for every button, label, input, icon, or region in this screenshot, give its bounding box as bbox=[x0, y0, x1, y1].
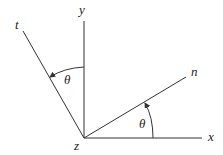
coordinate-rotation-diagram: y t n x z θ θ bbox=[0, 0, 223, 155]
n-label: n bbox=[191, 64, 198, 79]
n-axis-line bbox=[84, 77, 186, 138]
y-label: y bbox=[77, 2, 85, 17]
t-axis-line bbox=[23, 31, 84, 138]
theta-label-left: θ bbox=[64, 72, 71, 87]
x-label: x bbox=[207, 129, 214, 144]
theta-arc-right bbox=[145, 103, 153, 138]
theta-label-right: θ bbox=[139, 116, 146, 131]
t-label: t bbox=[15, 17, 19, 32]
z-label: z bbox=[73, 138, 79, 153]
